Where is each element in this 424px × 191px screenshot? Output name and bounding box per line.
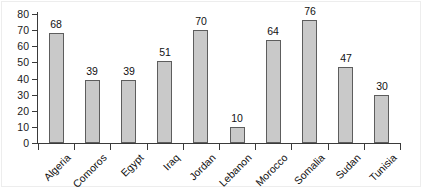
- y-axis-tick: [32, 62, 38, 63]
- y-axis-tick: [32, 46, 38, 47]
- x-axis-tick: [183, 144, 184, 150]
- bar-value-label: 39: [74, 66, 110, 77]
- bar: [302, 20, 317, 143]
- bar: [157, 61, 172, 143]
- x-axis-tick: [364, 144, 365, 150]
- y-axis-tick-label: 30: [4, 90, 29, 101]
- y-axis-tick-label: 0: [4, 138, 29, 149]
- bar-value-label: 10: [219, 113, 255, 124]
- y-axis-tick-label: 20: [4, 106, 29, 117]
- bar: [121, 80, 136, 143]
- x-axis-tick: [219, 144, 220, 150]
- bar: [230, 127, 245, 143]
- bar: [266, 40, 281, 143]
- bar-value-label: 30: [364, 81, 400, 92]
- bar-chart: 01020304050607080 68393951701064764730 A…: [0, 0, 424, 191]
- y-axis-tick: [32, 79, 38, 80]
- bar-value-label: 70: [183, 16, 219, 27]
- bar: [374, 95, 389, 143]
- bar: [338, 67, 353, 143]
- x-axis-tick: [255, 144, 256, 150]
- x-axis-category-label: Algeria: [0, 152, 72, 191]
- y-axis-tick-label: 60: [4, 41, 29, 52]
- y-axis-tick: [32, 30, 38, 31]
- x-axis-tick: [400, 144, 401, 150]
- x-axis-tick: [328, 144, 329, 150]
- y-axis-tick-label: 10: [4, 122, 29, 133]
- bar: [193, 30, 208, 143]
- bar: [85, 80, 100, 143]
- bar-value-label: 64: [255, 26, 291, 37]
- y-axis-tick-label: 40: [4, 74, 29, 85]
- x-axis-tick: [147, 144, 148, 150]
- bar-value-label: 47: [328, 53, 364, 64]
- bar-value-label: 76: [292, 6, 328, 17]
- x-axis-tick: [74, 144, 75, 150]
- y-axis-tick-label: 50: [4, 57, 29, 68]
- bar-value-label: 39: [111, 66, 147, 77]
- bar-value-label: 68: [38, 19, 74, 30]
- bar-value-label: 51: [147, 47, 183, 58]
- bar: [49, 33, 64, 143]
- y-axis-tick: [32, 95, 38, 96]
- y-axis-tick: [32, 127, 38, 128]
- y-axis-tick-label: 70: [4, 25, 29, 36]
- x-axis-tick: [110, 144, 111, 150]
- y-axis-tick-label: 80: [4, 9, 29, 20]
- x-axis-tick: [291, 144, 292, 150]
- y-axis-tick: [32, 14, 38, 15]
- y-axis-tick: [32, 111, 38, 112]
- x-axis-tick: [38, 144, 39, 150]
